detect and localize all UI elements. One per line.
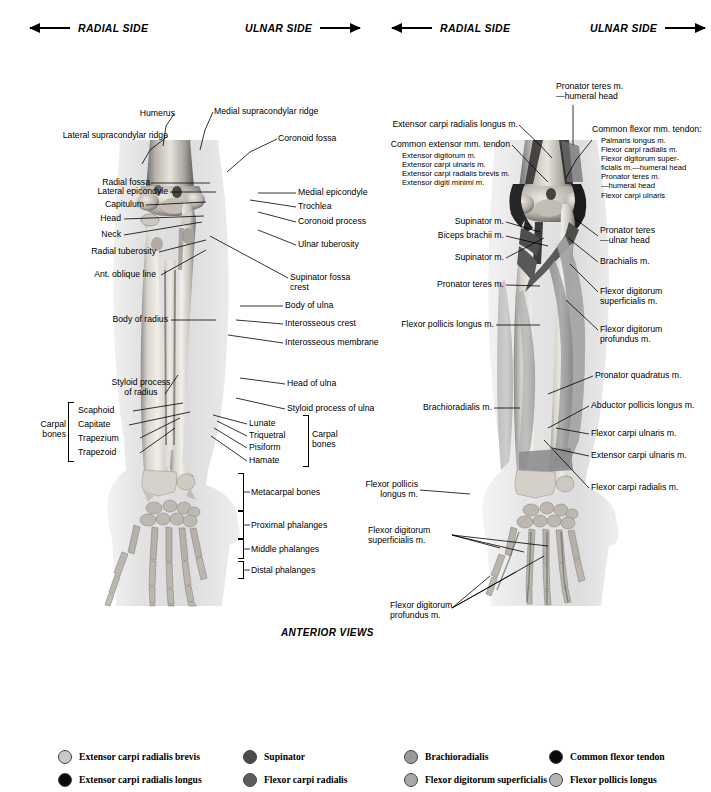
- legend-item[interactable]: Common flexor tendon: [549, 745, 665, 768]
- legend-item[interactable]: Flexor pollicis longus: [549, 768, 665, 791]
- label-carpal-bones-left: Carpal bones: [18, 419, 66, 439]
- legend-column: Extensor carpi radialis brevis Extensor …: [58, 745, 202, 791]
- label-common-flexor-sublist: Palmaris longus m. Flexor carpi radialis…: [601, 136, 686, 200]
- label-biceps-brachii: Biceps brachii m.: [410, 230, 504, 240]
- label-proximal-phalanges: Proximal phalanges: [251, 520, 327, 530]
- label-interosseous-membrane: Interosseous membrane: [285, 337, 379, 347]
- label-triquetral: Triquetral: [249, 430, 285, 440]
- middle-phalanges-bracket: [238, 539, 244, 559]
- anatomy-plate-page: RADIAL SIDE ULNAR SIDE RADIAL SIDE ULNAR…: [0, 0, 711, 792]
- label-flexor-pollicis-longus-upper: Flexor pollicis longus m.: [382, 319, 494, 329]
- label-brachioradialis: Brachioradialis m.: [400, 402, 492, 412]
- legend-swatch-icon: [58, 773, 72, 787]
- label-medial-supracondylar-ridge: Medial supracondylar ridge: [214, 106, 318, 116]
- legend-label: Common flexor tendon: [570, 751, 665, 762]
- label-pronator-quadratus: Pronator quadratus m.: [595, 370, 681, 380]
- legend: Extensor carpi radialis brevis Extensor …: [0, 745, 711, 792]
- legend-item[interactable]: Flexor carpi radialis: [243, 768, 348, 791]
- legend-label: Flexor carpi radialis: [264, 774, 348, 785]
- legend-swatch-icon: [243, 750, 257, 764]
- label-head: Head: [80, 213, 121, 223]
- figure-caption: ANTERIOR VIEWS: [281, 627, 374, 638]
- legend-swatch-icon: [243, 773, 257, 787]
- ulnar-side-label: ULNAR SIDE: [245, 22, 312, 35]
- label-supinator-upper: Supinator m.: [420, 216, 504, 226]
- label-ant-oblique-line: Ant. oblique line: [64, 269, 156, 279]
- legend-label: Extensor carpi radialis longus: [79, 774, 202, 785]
- label-head-of-ulna: Head of ulna: [287, 378, 336, 388]
- legend-swatch-icon: [404, 773, 418, 787]
- label-extensor-carpi-ulnaris: Extensor carpi ulnaris m.: [591, 450, 687, 460]
- label-coronoid-fossa: Coronoid fossa: [278, 133, 336, 143]
- label-flexor-digitorum-superficialis-upper: Flexor digitorum superficialis m.: [600, 286, 662, 306]
- right-figure-radial-direction: RADIAL SIDE: [392, 22, 510, 35]
- label-common-flexor-tendon: Common flexor mm. tendon:: [592, 124, 702, 134]
- legend-label: Flexor digitorum superficialis: [425, 774, 547, 785]
- label-trapezoid: Trapezoid: [78, 447, 116, 457]
- carpal-bones-right-bracket: [303, 415, 309, 467]
- radial-side-label: RADIAL SIDE: [78, 22, 148, 35]
- label-lunate: Lunate: [249, 418, 276, 428]
- label-flexor-digitorum-profundus-lower: Flexor digitorum profundus m.: [390, 600, 452, 620]
- legend-item[interactable]: Flexor digitorum superficialis: [404, 768, 547, 791]
- legend-item[interactable]: Supinator: [243, 745, 348, 768]
- distal-phalanges-bracket: [238, 561, 244, 579]
- label-hamate: Hamate: [249, 455, 279, 465]
- ulnar-arrow-right-icon: [320, 27, 360, 29]
- proximal-phalanges-bracket: [238, 511, 244, 539]
- radial-side-label: RADIAL SIDE: [440, 22, 510, 35]
- legend-label: Supinator: [264, 751, 305, 762]
- label-ulnar-tuberosity: Ulnar tuberosity: [298, 239, 359, 249]
- label-styloid-process-of-radius: Styloid process of radius: [98, 377, 184, 397]
- left-figure-ulnar-direction: ULNAR SIDE: [245, 22, 360, 35]
- label-lateral-epicondyle: Lateral epicondyle: [68, 186, 168, 196]
- label-body-of-radius: Body of radius: [76, 314, 168, 324]
- label-abductor-pollicis-longus: Abductor pollicis longus m.: [591, 400, 694, 410]
- label-carpal-bones-right: Carpal bones: [312, 429, 338, 449]
- legend-item[interactable]: Extensor carpi radialis brevis: [58, 745, 202, 768]
- legend-swatch-icon: [58, 750, 72, 764]
- carpal-bones-left-bracket: [68, 402, 74, 462]
- legend-column: Common flexor tendon Flexor pollicis lon…: [549, 745, 665, 791]
- label-middle-phalanges: Middle phalanges: [251, 544, 319, 554]
- legend-swatch-icon: [549, 773, 563, 787]
- radial-arrow-left-icon: [392, 27, 432, 29]
- label-flexor-digitorum-superficialis-lower: Flexor digitorum superficialis m.: [368, 525, 430, 545]
- right-figure-ulnar-direction: ULNAR SIDE: [590, 22, 705, 35]
- label-flexor-digitorum-profundus-upper: Flexor digitorum profundus m.: [600, 324, 662, 344]
- label-neck: Neck: [80, 229, 121, 239]
- label-flexor-carpi-ulnaris: Flexor carpi ulnaris m.: [591, 428, 676, 438]
- label-flexor-pollicis-longus-lower: Flexor pollicis longus m.: [352, 479, 418, 499]
- label-interosseous-crest: Interosseous crest: [285, 318, 356, 328]
- legend-item[interactable]: Brachioradialis: [404, 745, 547, 768]
- label-capitate: Capitate: [78, 419, 110, 429]
- label-supinator-fossa-crest: Supinator fossa crest: [290, 272, 350, 292]
- legend-swatch-icon: [404, 750, 418, 764]
- legend-column: Brachioradialis Flexor digitorum superfi…: [404, 745, 547, 791]
- label-metacarpal-bones: Metacarpal bones: [251, 487, 320, 497]
- label-pronator-teres-ulnar-head: Pronator teres —ulnar head: [600, 225, 655, 245]
- left-forearm-skeleton-image: [78, 140, 263, 610]
- legend-item[interactable]: Extensor carpi radialis longus: [58, 768, 202, 791]
- label-body-of-ulna: Body of ulna: [285, 300, 333, 310]
- legend-label: Brachioradialis: [425, 751, 488, 762]
- label-flexor-carpi-radialis: Flexor carpi radialis m.: [591, 482, 678, 492]
- metacarpal-bracket: [238, 473, 244, 511]
- label-scaphoid: Scaphoid: [78, 405, 114, 415]
- label-brachialis: Brachialis m.: [600, 256, 650, 266]
- label-pronator-teres: Pronator teres m.: [398, 279, 504, 289]
- legend-label: Flexor pollicis longus: [570, 774, 657, 785]
- label-trochlea: Trochlea: [298, 201, 331, 211]
- label-trapezium: Trapezium: [78, 433, 119, 443]
- label-pisiform: Pisiform: [249, 442, 280, 452]
- legend-swatch-icon: [549, 750, 563, 764]
- label-medial-epicondyle: Medial epicondyle: [298, 187, 368, 197]
- radial-arrow-left-icon: [30, 27, 70, 29]
- label-styloid-process-of-ulna: Styloid process of ulna: [287, 403, 374, 413]
- label-lateral-supracondylar-ridge: Lateral supracondylar ridge: [40, 130, 168, 140]
- label-distal-phalanges: Distal phalanges: [251, 565, 315, 575]
- ulnar-side-label: ULNAR SIDE: [590, 22, 657, 35]
- legend-label: Extensor carpi radialis brevis: [79, 751, 200, 762]
- label-extensor-carpi-radialis-longus: Extensor carpi radialis longus m.: [370, 119, 518, 129]
- label-common-extensor-sublist: Extensor digitorum m. Extensor carpi uln…: [402, 151, 510, 187]
